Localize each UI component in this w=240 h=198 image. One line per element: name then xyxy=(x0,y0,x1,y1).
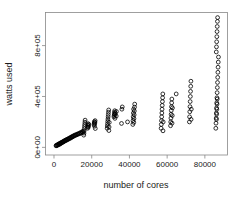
x-tick-label: 60000 xyxy=(156,160,179,169)
scatter-plot-figure: 020000400006000080000 0e+004e+058e+05 nu… xyxy=(0,0,240,198)
x-tick-label: 40000 xyxy=(118,160,141,169)
x-tick-label: 20000 xyxy=(81,160,104,169)
y-axis-title: watts used xyxy=(4,62,14,106)
x-tick-label: 0 xyxy=(52,160,57,169)
x-axis-title: number of cores xyxy=(103,180,169,190)
y-tick-label: 4e+05 xyxy=(33,85,42,108)
y-tick-label: 8e+05 xyxy=(33,34,42,57)
x-tick-label: 80000 xyxy=(194,160,217,169)
y-tick-label: 0e+00 xyxy=(33,136,42,159)
